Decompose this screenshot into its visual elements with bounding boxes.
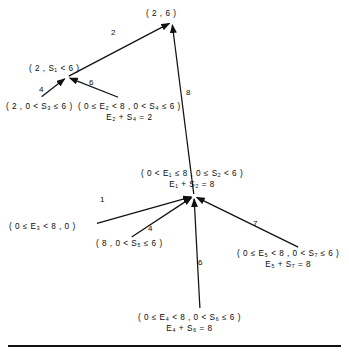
edge-s3-to-s1 (42, 79, 65, 97)
node-label-e5-s7: ( 0 ≤ E₅ < 8 , 0 < S₇ ≤ 6 ) E₅ + S₇ = 8 (237, 248, 339, 270)
edge-weight-s1-to-top: 2 (111, 28, 115, 37)
edge-e4s6-to-center (194, 199, 200, 308)
node-label-8-s5: ( 8 , 0 < S₅ ≤ 6 ) (96, 238, 163, 249)
node-equation-line: E₄ + S₆ = 8 (138, 323, 241, 334)
node-text-line: ( 2 , 0 < S₃ ≤ 6 ) (6, 101, 73, 112)
node-text-line: ( 0 ≤ E₅ < 8 , 0 < S₇ ≤ 6 ) (237, 248, 339, 259)
edge-weight-s5-to-center: 4 (148, 224, 152, 233)
node-text-line: ( 8 , 0 < S₅ ≤ 6 ) (96, 238, 163, 249)
edge-e5s7-to-center (197, 197, 299, 247)
edge-weight-center-to-top: 8 (186, 88, 190, 97)
node-text-line: ( 0 < E₁ ≤ 8 , 0 ≤ S₂ < 6 ) (141, 168, 243, 179)
node-label-e4-s6: ( 0 ≤ E₄ < 8 , 0 < S₆ ≤ 6 ) E₄ + S₆ = 8 (138, 312, 241, 334)
node-text-line: ( 2 , 6 ) (146, 8, 176, 19)
node-equation-line: E₂ + S₄ = 2 (78, 112, 181, 123)
edge-weight-e4s6-to-center: 6 (198, 258, 202, 267)
node-label-e1-s2-center: ( 0 < E₁ ≤ 8 , 0 ≤ S₂ < 6 ) E₁ + S₂ = 8 (141, 168, 243, 190)
node-equation-line: E₁ + S₂ = 8 (141, 179, 243, 190)
node-text-line: ( 0 ≤ E₃ < 8 , 0 ) (9, 221, 76, 232)
edge-s5-to-center (132, 198, 192, 237)
node-label-e3-0: ( 0 ≤ E₃ < 8 , 0 ) (9, 221, 76, 232)
diagram-root: ( 2 , 6 ) ( 2 , S₁ < 6 ) ( 2 , 0 < S₃ ≤ … (0, 0, 349, 355)
edge-weight-s3-to-s1: 4 (39, 85, 43, 94)
edge-weight-e5s7-to-center: 7 (253, 219, 257, 228)
node-equation-line: E₅ + S₇ = 8 (237, 259, 339, 270)
bottom-divider (8, 345, 341, 347)
node-label-2-6: ( 2 , 6 ) (146, 8, 176, 19)
node-text-line: ( 2 , S₁ < 6 ) (29, 63, 80, 74)
edge-weight-e2s4-to-s1: 6 (89, 78, 93, 87)
node-label-2-0-lt-s3-le6: ( 2 , 0 < S₃ ≤ 6 ) (6, 101, 73, 112)
node-text-line: ( 0 ≤ E₄ < 8 , 0 < S₆ ≤ 6 ) (138, 312, 241, 323)
node-label-e2-s4: ( 0 ≤ E₂ < 8 , 0 < S₄ ≤ 6 ) E₂ + S₄ = 2 (78, 101, 181, 123)
edge-e2s4-to-s1 (70, 78, 118, 97)
edge-s1-to-top (69, 23, 170, 76)
node-text-line: ( 0 ≤ E₂ < 8 , 0 < S₄ ≤ 6 ) (78, 101, 181, 112)
node-label-2-s1-lt6: ( 2 , S₁ < 6 ) (29, 63, 80, 74)
edge-weight-e3-to-center: 1 (100, 195, 104, 204)
edge-e3-to-center (97, 197, 191, 224)
